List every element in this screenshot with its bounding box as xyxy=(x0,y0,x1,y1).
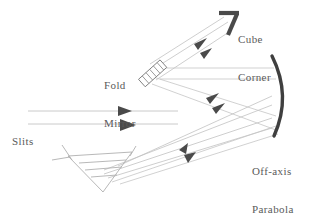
prism-entry-ray xyxy=(52,157,70,160)
label-prism: Prism xyxy=(84,196,112,220)
label-off-axis-line1: Off-axis xyxy=(252,165,294,178)
label-fold-mirror: Fold Mirror xyxy=(104,54,136,154)
label-cube-corner-line1: Cube xyxy=(238,33,271,46)
prism-internal-1 xyxy=(79,160,126,163)
label-off-axis-parabola: Off-axis Parabola xyxy=(252,140,294,220)
ray-bundle-slits-to-prism xyxy=(28,111,178,124)
label-cube-corner: Cube Corner xyxy=(238,8,271,108)
cube-corner-diagonal xyxy=(228,14,237,35)
prism-outline xyxy=(68,152,132,192)
ray-cube-lower xyxy=(156,30,232,80)
cube-corner-retroreflector-icon xyxy=(219,13,239,35)
label-slits-line1: Slits xyxy=(12,135,34,148)
arrow-prism-to-parabola-lower xyxy=(212,103,225,114)
fold-mirror-icon xyxy=(139,60,167,87)
ray-cube-upper xyxy=(152,22,228,70)
label-cube-corner-line2: Corner xyxy=(238,71,271,84)
ray-cube-return xyxy=(150,17,224,64)
label-slits: Slits xyxy=(12,110,34,173)
fold-mirror-body xyxy=(139,60,167,87)
label-fold-mirror-line2: Mirror xyxy=(104,117,136,130)
label-fold-mirror-line1: Fold xyxy=(104,79,136,92)
optical-layout-diagram: Cube Corner Fold Mirror Slits Off-axis P… xyxy=(0,0,312,220)
label-off-axis-line2: Parabola xyxy=(252,203,294,216)
